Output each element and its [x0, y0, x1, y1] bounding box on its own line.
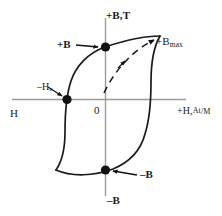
negative-coercivity-label: –Hc — [37, 82, 53, 93]
hysteresis-upper-branch — [56, 36, 160, 170]
leader-arrow-positive-remanence — [76, 45, 98, 47]
coercivity-label-symbol: –H — [37, 81, 49, 92]
y-axis-label: +B,T — [106, 10, 130, 21]
x-axis-label-left: H — [10, 108, 18, 119]
x-axis-label-right: +H,At/M — [177, 106, 210, 116]
point-positive-remanence — [101, 42, 110, 51]
x-axis-units-denominator: /M — [201, 106, 211, 115]
initial-magnetization-curve — [104, 40, 154, 93]
x-axis-symbol: +H, — [177, 105, 193, 116]
x-axis-units: At/M — [193, 106, 211, 115]
y-axis-label-bottom: –B — [107, 195, 120, 206]
saturation-label-subscript: max — [170, 40, 183, 49]
point-negative-remanence — [101, 165, 110, 174]
hysteresis-lower-branch — [56, 36, 160, 175]
leader-arrow-negative-remanence — [113, 171, 137, 175]
point-negative-coercivity — [62, 95, 71, 104]
positive-remanence-label: +B — [57, 39, 71, 50]
saturation-label-symbol: +B — [156, 35, 170, 47]
hysteresis-loop-figure: +B,T +Bmax +B –Hc H +H,At/M 0 –B –B — [0, 0, 222, 216]
saturation-label: +Bmax — [156, 36, 183, 48]
initial-curve-direction-arrow — [118, 61, 125, 68]
origin-label: 0 — [94, 105, 100, 116]
negative-remanence-label: –B — [140, 169, 153, 180]
coercivity-label-subscript: c — [49, 85, 52, 92]
x-axis-units-numerator: At — [193, 106, 201, 115]
